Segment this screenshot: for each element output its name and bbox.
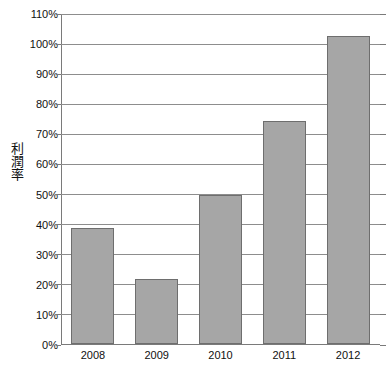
y-tick-label: 0%: [22, 340, 58, 351]
y-tick-label: 70%: [22, 129, 58, 140]
x-tick-label: 2008: [81, 349, 105, 361]
y-tick-label: 50%: [22, 189, 58, 200]
y-tick-label: 90%: [22, 69, 58, 80]
x-tick-label: 2012: [336, 349, 360, 361]
y-tick-label: 10%: [22, 309, 58, 320]
y-tick-mark: [380, 44, 386, 45]
bar-chart: 利潤率 110%100%90%80%70%60%50%40%30%20%10%0…: [0, 0, 387, 374]
bar: [135, 279, 178, 344]
y-tick-label: 110%: [22, 9, 58, 20]
y-tick-label: 20%: [22, 279, 58, 290]
y-tick-mark: [380, 74, 386, 75]
y-tick-label: 40%: [22, 219, 58, 230]
y-tick-mark: [380, 164, 386, 165]
plot-area: [61, 14, 380, 345]
x-tick-label: 2010: [208, 349, 232, 361]
y-tick-mark: [380, 194, 386, 195]
y-axis-tick-labels: 110%100%90%80%70%60%50%40%30%20%10%0%: [22, 0, 58, 374]
bars-group: [61, 14, 380, 345]
bar: [263, 121, 306, 344]
x-axis-tick-labels: 20082009201020112012: [61, 349, 380, 369]
x-tick-label: 2009: [144, 349, 168, 361]
y-tick-mark: [380, 224, 386, 225]
bar: [199, 195, 242, 344]
y-tick-mark: [380, 345, 386, 346]
y-tick-mark: [380, 104, 386, 105]
x-tick-label: 2011: [272, 349, 296, 361]
bar: [71, 228, 114, 344]
y-tick-label: 30%: [22, 249, 58, 260]
y-tick-mark: [380, 14, 386, 15]
x-axis-line: [61, 344, 380, 345]
y-tick-label: 80%: [22, 99, 58, 110]
y-tick-label: 100%: [22, 39, 58, 50]
bar: [327, 36, 370, 344]
y-tick-mark: [380, 134, 386, 135]
y-tick-mark: [380, 284, 386, 285]
y-tick-label: 60%: [22, 159, 58, 170]
y-tick-mark: [380, 254, 386, 255]
y-tick-mark: [380, 314, 386, 315]
